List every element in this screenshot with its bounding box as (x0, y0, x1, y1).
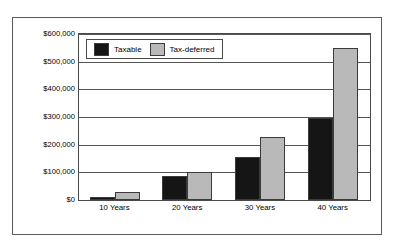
legend-entry-taxable: Taxable (94, 43, 142, 56)
bar-tax-deferred-40-years (333, 48, 358, 200)
y-axis-tick-label: $400,000 (43, 84, 75, 93)
legend-entry-tax-deferred: Tax-deferred (150, 43, 215, 56)
y-axis-tick-label: $600,000 (43, 29, 75, 38)
x-axis-tick-label: 20 Years (172, 203, 202, 212)
chart-figure-frame: $0$100,000$200,000$300,000$400,000$500,0… (12, 17, 382, 235)
x-axis: 10 Years20 Years30 Years40 Years (78, 203, 371, 221)
legend-label-taxable: Taxable (114, 45, 142, 54)
bar-taxable-20-years (162, 176, 187, 200)
y-axis-tick-label: $500,000 (43, 56, 75, 65)
legend-swatch-tax-deferred (150, 43, 165, 56)
bar-taxable-10-years (90, 197, 115, 200)
x-axis-tick-label: 30 Years (245, 203, 275, 212)
y-axis-tick-label: $0 (67, 195, 75, 204)
legend-swatch-taxable (94, 43, 109, 56)
y-axis: $0$100,000$200,000$300,000$400,000$500,0… (13, 18, 77, 236)
bar-taxable-30-years (235, 157, 260, 200)
x-axis-tick-label: 40 Years (317, 203, 347, 212)
legend-label-tax-deferred: Tax-deferred (170, 45, 215, 54)
bar-taxable-40-years (308, 118, 333, 200)
plot-area: Taxable Tax-deferred (78, 33, 371, 201)
bar-tax-deferred-10-years (115, 192, 140, 200)
bar-tax-deferred-20-years (187, 172, 212, 200)
y-axis-tick-label: $100,000 (43, 167, 75, 176)
bar-tax-deferred-30-years (260, 137, 285, 200)
x-axis-tick-label: 10 Years (99, 203, 129, 212)
chart-legend: Taxable Tax-deferred (86, 39, 223, 59)
y-axis-tick-label: $300,000 (43, 112, 75, 121)
y-axis-tick-label: $200,000 (43, 139, 75, 148)
